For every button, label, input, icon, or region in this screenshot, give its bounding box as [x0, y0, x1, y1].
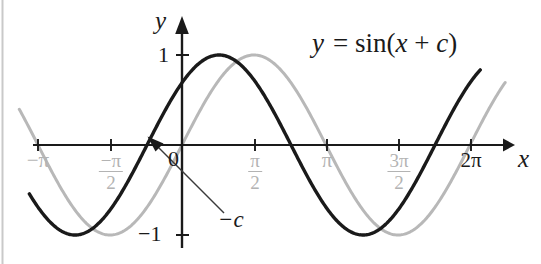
shift-marker-label: −c	[218, 208, 244, 231]
x-tick-label-3pi-over-2: 3π 2	[387, 150, 410, 192]
equation-plus: +	[414, 28, 429, 58]
equation-equals: =	[333, 28, 348, 58]
fraction-numerator: π	[248, 151, 262, 172]
x-tick-label-neg-pi-over-2: −π 2	[99, 150, 123, 192]
fraction-denominator: 2	[99, 172, 123, 192]
shift-leader-line	[148, 137, 225, 214]
x-axis-label: x	[518, 146, 529, 171]
y-axis	[175, 16, 189, 248]
x-tick-label-neg-pi: −π	[27, 150, 49, 171]
fraction-numerator: −π	[99, 151, 123, 172]
equation-close-paren: )	[448, 28, 457, 58]
equation-c: c	[436, 28, 448, 58]
fraction-denominator: 2	[248, 172, 262, 192]
y-axis-label: y	[155, 8, 166, 33]
fraction-numerator: 3π	[387, 151, 410, 172]
sine-shift-figure: y x 1 −1 0 −π −π 2 π 2 π 3π 2 2π	[0, 0, 541, 264]
equation-x: x	[396, 28, 408, 58]
equation-label: y = sin(x + c)	[312, 30, 457, 57]
x-tick-label-pi-over-2: π 2	[248, 150, 262, 192]
equation-sin: sin	[355, 28, 387, 58]
plot-canvas	[0, 0, 541, 264]
fraction-denominator: 2	[387, 172, 410, 192]
y-tick-label-one: 1	[158, 44, 169, 66]
x-tick-label-2pi: 2π	[460, 150, 481, 171]
equation-y: y	[312, 28, 324, 58]
origin-label: 0	[168, 148, 179, 170]
y-tick-label-negative-one: −1	[138, 223, 161, 245]
equation-open-paren: (	[387, 28, 396, 58]
x-tick-label-pi: π	[322, 150, 333, 171]
